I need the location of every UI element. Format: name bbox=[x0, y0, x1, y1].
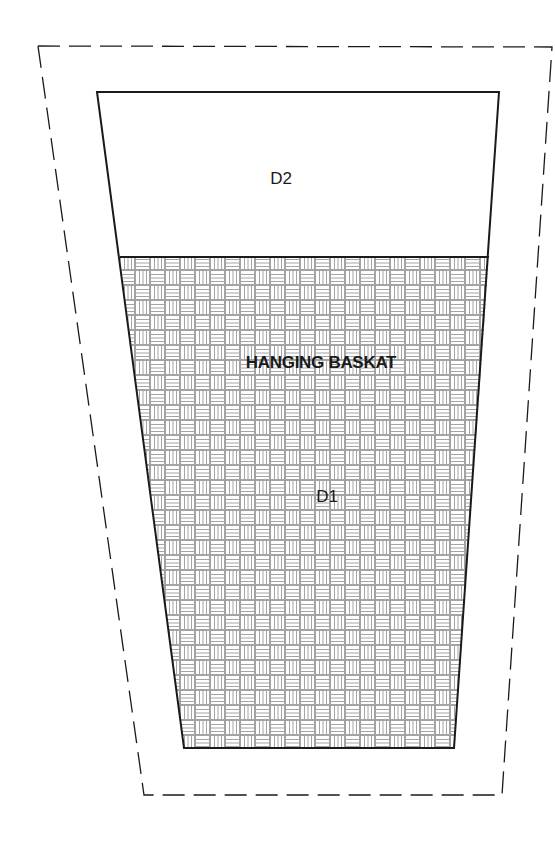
region-d1 bbox=[120, 257, 489, 748]
diagram-canvas: D2 HANGING BASKAT D1 bbox=[0, 0, 555, 852]
region-label-d1: D1 bbox=[316, 487, 338, 506]
diagram-title: HANGING BASKAT bbox=[246, 353, 397, 372]
region-label-d2: D2 bbox=[270, 169, 292, 188]
region-d2 bbox=[97, 92, 499, 257]
